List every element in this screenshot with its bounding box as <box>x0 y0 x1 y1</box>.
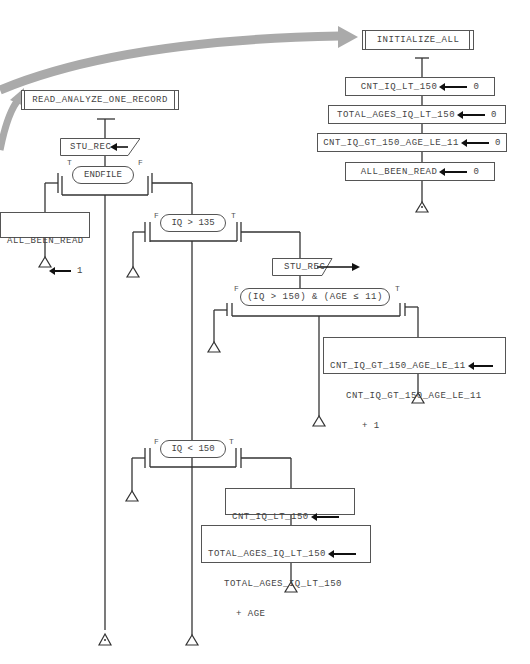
assign-arrow-icon <box>53 270 71 272</box>
assign-arrow-icon <box>443 171 467 173</box>
true-label: T <box>229 437 234 446</box>
true-label: T <box>231 211 236 220</box>
assign-arrow-icon <box>443 86 467 88</box>
true-label: T <box>67 158 72 167</box>
assign-target: CNT_IQ_GT_150_AGE_LE_11 <box>330 361 466 371</box>
assign-total-ages-iq-lt-150[interactable]: TOTAL_AGES_IQ_LT_150 0 <box>328 105 506 124</box>
endfile-condition[interactable]: ENDFILE <box>72 166 134 184</box>
iq-lt-150-condition[interactable]: IQ < 150 <box>160 440 226 458</box>
assign-expression: TOTAL_AGES_IQ_LT_150 <box>208 579 364 589</box>
assign-target: CNT_IQ_GT_150_AGE_LE_11 <box>323 138 459 148</box>
false-label: F <box>154 437 159 446</box>
increment-cnt-iq-lt-150[interactable]: CNT_IQ_LT_150 CNT_IQ_LT_150 + 1 <box>225 488 355 515</box>
read-record-label: STU_REC <box>70 138 111 156</box>
assign-target: TOTAL_AGES_IQ_LT_150 <box>337 110 455 120</box>
increment-cnt-iq-gt-150-age-le-11[interactable]: CNT_IQ_GT_150_AGE_LE_11 CNT_IQ_GT_150_AG… <box>323 337 506 374</box>
assign-expression-cont: + AGE <box>208 609 364 619</box>
assign-value: 1 <box>77 266 83 276</box>
assign-value: 0 <box>491 110 497 120</box>
assign-arrow-icon <box>461 114 485 116</box>
assign-expression: CNT_IQ_GT_150_AGE_LE_11 <box>330 391 499 401</box>
assign-target: ALL_BEEN_READ <box>361 167 438 177</box>
assign-target: CNT_IQ_LT_150 <box>361 82 438 92</box>
assign-value: 0 <box>495 138 501 148</box>
assign-arrow-icon <box>332 553 356 555</box>
assign-cnt-iq-lt-150[interactable]: CNT_IQ_LT_150 0 <box>345 77 495 96</box>
iq-gt-150-and-age-le-11-condition[interactable]: (IQ > 150) & (AGE ≤ 11) <box>240 288 390 306</box>
assign-value: 0 <box>473 82 479 92</box>
false-label: F <box>234 284 239 293</box>
write-stu-rec-output[interactable]: STU_REC <box>272 258 362 276</box>
write-record-label: STU_REC <box>284 258 325 276</box>
true-label: T <box>395 284 400 293</box>
false-label: F <box>154 211 159 220</box>
read-analyze-one-record-process[interactable]: READ_ANALYZE_ONE_RECORD <box>21 90 179 110</box>
assign-target: TOTAL_AGES_IQ_LT_150 <box>208 549 326 559</box>
iq-gt-135-condition[interactable]: IQ > 135 <box>160 214 226 232</box>
assign-all-been-read[interactable]: ALL_BEEN_READ 0 <box>345 162 495 181</box>
assign-cnt-iq-gt-150-age-le-11[interactable]: CNT_IQ_GT_150_AGE_LE_11 0 <box>317 133 507 152</box>
add-age-to-total-ages-iq-lt-150[interactable]: TOTAL_AGES_IQ_LT_150 TOTAL_AGES_IQ_LT_15… <box>201 525 371 563</box>
set-all-been-read[interactable]: ALL_BEEN_READ 1 <box>0 212 90 238</box>
assign-arrow-icon <box>465 142 489 144</box>
assign-value: 0 <box>473 167 479 177</box>
assign-arrow-icon <box>315 516 339 518</box>
assign-expression-cont: + 1 <box>330 421 499 431</box>
assign-target: ALL_BEEN_READ <box>7 236 83 246</box>
false-label: F <box>138 158 143 167</box>
initialize-all-process[interactable]: INITIALIZE_ALL <box>362 30 474 50</box>
assign-target: CNT_IQ_LT_150 <box>232 512 309 522</box>
assign-arrow-icon <box>472 365 493 367</box>
read-stu-rec-input[interactable]: STU_REC <box>60 138 136 156</box>
